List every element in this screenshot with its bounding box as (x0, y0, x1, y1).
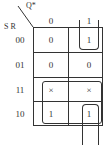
group-loop-sr (82, 104, 99, 145)
grid-line (33, 27, 34, 126)
cell: 0 (44, 35, 58, 45)
col-header: 0 (44, 16, 58, 26)
row-header: 10 (12, 109, 28, 119)
group-loop-q (79, 20, 99, 50)
grid-line (102, 27, 103, 126)
row-header: 00 (12, 35, 28, 45)
row-var-label: S R (4, 22, 16, 32)
row-header: 11 (12, 85, 28, 95)
cell: 0 (82, 60, 96, 70)
row-header: 01 (12, 60, 28, 70)
col-var-label: Q* (26, 1, 36, 11)
cell: 0 (44, 60, 58, 70)
